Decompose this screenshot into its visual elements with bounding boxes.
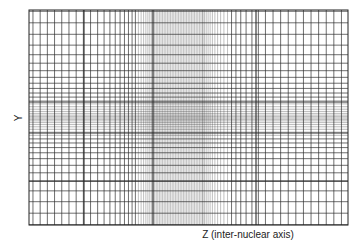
grid-diagram: Z (inter-nuclear axis) Y bbox=[0, 0, 364, 250]
grid-border bbox=[29, 10, 348, 225]
vertical-grid-lines bbox=[33, 10, 341, 225]
horizontal-grid-lines bbox=[29, 11, 348, 224]
y-axis-label: Y bbox=[13, 114, 24, 121]
x-axis-label: Z (inter-nuclear axis) bbox=[202, 229, 294, 240]
